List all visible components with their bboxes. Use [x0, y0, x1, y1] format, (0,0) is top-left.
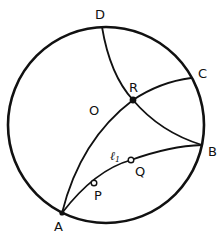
label-P: P [94, 188, 102, 203]
label-A: A [54, 219, 63, 234]
label-O: O [89, 103, 99, 118]
poincare-disk-diagram: D C R O B A P Q ℓ1 [0, 0, 222, 237]
label-C: C [198, 66, 207, 81]
arc-D-R-B [102, 27, 202, 145]
label-B: B [208, 144, 217, 159]
label-Q: Q [135, 164, 145, 179]
label-D: D [95, 7, 105, 22]
arc-l1-line [62, 145, 202, 213]
point-A-marker [59, 210, 64, 215]
point-R-marker [130, 97, 137, 104]
point-P-marker [91, 180, 97, 186]
label-l1: ℓ1 [110, 149, 120, 164]
arc-A-R-C [62, 78, 191, 213]
point-Q-marker [128, 157, 134, 163]
label-R: R [129, 80, 138, 95]
